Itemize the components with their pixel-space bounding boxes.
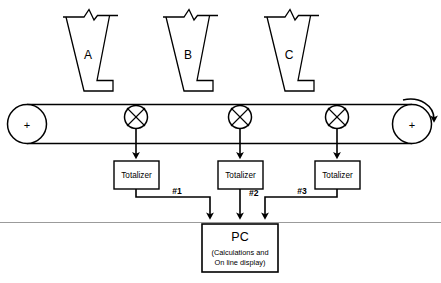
totalizer-2-label: Totalizer: [225, 171, 256, 180]
totalizer-3-label: Totalizer: [322, 171, 353, 180]
pulley-right-center-mark: +: [409, 119, 415, 131]
totalizer-2[interactable]: Totalizer: [218, 161, 263, 189]
signal-wire-3: #3: [265, 186, 337, 216]
signal-wire-3-label: #3: [297, 186, 307, 196]
hopper-b: B: [163, 10, 218, 92]
hopper-c-label: C: [285, 48, 294, 62]
pc-node[interactable]: PC (Calculations and On line display): [202, 224, 278, 272]
signal-wire-2: #2: [240, 188, 259, 216]
pc-subtitle-line-1: (Calculations and: [211, 248, 268, 257]
pulley-left-center-mark: +: [24, 119, 30, 131]
hopper-a: A: [63, 10, 118, 92]
totalizer-1-label: Totalizer: [121, 171, 152, 180]
totalizer-1[interactable]: Totalizer: [114, 161, 159, 189]
diagram-svg: A B C + +: [0, 0, 441, 283]
diagram-canvas: A B C + +: [0, 0, 441, 283]
weigh-sensor-1: [125, 106, 148, 156]
weigh-sensor-2: [229, 106, 252, 156]
hopper-b-label: B: [184, 48, 192, 62]
signal-wire-1-label: #1: [172, 186, 182, 196]
hopper-c-break-line: [264, 10, 319, 21]
weigh-sensor-3: [326, 106, 349, 156]
hopper-a-label: A: [84, 48, 92, 62]
pc-subtitle-line-2: On line display): [215, 258, 266, 267]
totalizer-3[interactable]: Totalizer: [315, 161, 360, 189]
signal-wire-1: #1: [136, 186, 210, 216]
signal-wire-2-label: #2: [249, 188, 259, 198]
hopper-a-break-line: [63, 10, 118, 21]
hopper-b-break-line: [163, 10, 218, 21]
hopper-c: C: [264, 10, 319, 92]
pc-title: PC: [231, 230, 248, 244]
conveyor-belt: + +: [8, 105, 432, 144]
